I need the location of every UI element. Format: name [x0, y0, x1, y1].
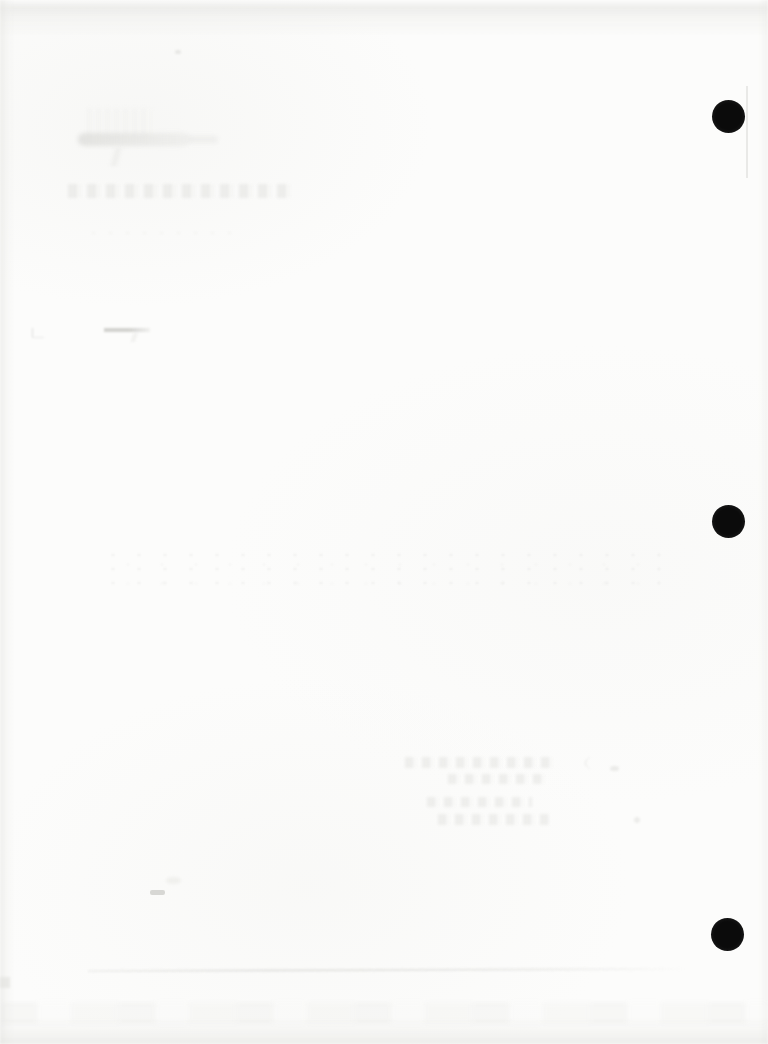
scan-edge-nub — [0, 977, 10, 988]
bleedthrough-scribble-streaks — [88, 108, 152, 138]
scan-edge-shadow-left — [0, 0, 14, 1044]
bleedthrough-dash-tail — [120, 333, 148, 342]
scan-edge-shadow-top — [0, 0, 768, 36]
scan-edge-shadow-bottom — [0, 1016, 768, 1044]
crease-line-bottom — [88, 968, 688, 972]
scanned-page — [0, 0, 768, 1044]
crease-line-right — [746, 86, 748, 178]
bleedthrough-smudge-descender — [92, 148, 140, 166]
bleedthrough-smudge — [78, 133, 190, 146]
bleedthrough-speck-right — [634, 817, 640, 823]
punch-hole — [712, 505, 745, 538]
bleedthrough-paren-mark — [585, 757, 599, 769]
bleedthrough-faint-blob — [166, 877, 181, 884]
bleedthrough-speck — [175, 50, 181, 54]
bleedthrough-dotted-line — [85, 229, 235, 237]
bleedthrough-text-line-4 — [438, 814, 550, 825]
bleedthrough-speck-band — [100, 548, 660, 584]
bleedthrough-small-dash — [150, 890, 165, 895]
punch-hole — [711, 918, 744, 951]
bleedthrough-text-line-3 — [427, 797, 532, 807]
bleedthrough-text-line-1 — [405, 757, 553, 768]
bleedthrough-dot-mark — [610, 766, 619, 771]
scan-mottle-band-bottom — [0, 1002, 768, 1024]
scan-edge-shadow-right — [759, 0, 768, 1044]
bleedthrough-smudge-tail — [188, 136, 218, 143]
bleedthrough-dash — [104, 328, 150, 332]
bleedthrough-handwriting-line — [68, 184, 296, 198]
bleedthrough-n-mark — [32, 328, 44, 338]
punch-hole — [712, 100, 745, 133]
bleedthrough-text-line-2 — [448, 774, 547, 784]
